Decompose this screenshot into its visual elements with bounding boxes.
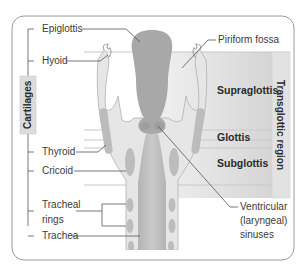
label-cartilages: Cartilages: [22, 80, 33, 130]
label-cricoid: Cricoid: [42, 165, 73, 177]
label-supraglottis: Supraglottis: [217, 84, 278, 96]
label-hyoid: Hyoid: [42, 55, 68, 67]
label-piriform-fossa: Piriform fossa: [218, 34, 279, 46]
label-transglottic-region: Transglottic region: [275, 58, 286, 192]
label-glottis: Glottis: [217, 131, 250, 143]
label-trachea: Trachea: [42, 230, 78, 242]
label-ventricular-line1: Ventricular: [240, 201, 287, 213]
label-ventricular-line2: (laryngeal): [240, 215, 287, 227]
label-ventricular-line3: sinuses: [240, 229, 274, 241]
larynx-diagram: Epiglottis Hyoid Thyroid Cricoid Trachea…: [0, 0, 307, 274]
label-tracheal-rings-line1: Tracheal: [42, 199, 81, 211]
label-subglottis: Subglottis: [217, 157, 268, 169]
label-epiglottis: Epiglottis: [42, 23, 83, 35]
label-tracheal-rings-line2: rings: [42, 214, 64, 226]
label-thyroid: Thyroid: [42, 146, 75, 158]
